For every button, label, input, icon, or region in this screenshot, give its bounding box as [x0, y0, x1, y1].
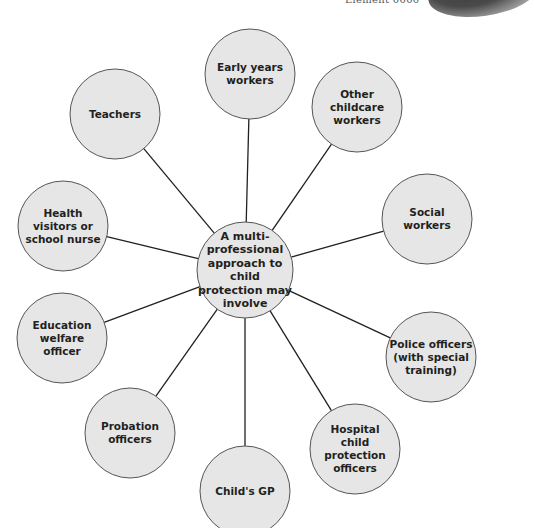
connector-line-probation-officers	[156, 309, 217, 396]
node-label-police-officers: Police officers (with special training)	[386, 312, 476, 402]
connector-line-hospital-child-protection-officers	[270, 311, 331, 411]
connector-line-education-welfare-officer	[104, 287, 200, 323]
connector-line-early-years-workers	[246, 119, 249, 222]
node-label-early-years-workers: Early years workers	[205, 29, 295, 119]
connector-line-teachers	[144, 149, 214, 234]
node-label-other-childcare-workers: Other childcare workers	[312, 62, 402, 152]
connector-line-police-officers	[288, 290, 390, 338]
connector-line-health-visitors-or-school-nurse	[107, 237, 199, 259]
node-label-education-welfare-officer: Education welfare officer	[17, 293, 107, 383]
node-label-teachers: Teachers	[70, 69, 160, 159]
center-label: A multi- professional approach to child …	[197, 222, 293, 318]
node-label-social-workers: Social workers	[382, 174, 472, 264]
connector-line-social-workers	[291, 231, 383, 257]
node-label-hospital-child-protection-officers: Hospital child protection officers	[310, 404, 400, 494]
node-label-probation-officers: Probation officers	[85, 388, 175, 478]
node-label-childs-gp: Child's GP	[200, 446, 290, 528]
node-label-health-visitors-or-school-nurse: Health visitors or school nurse	[18, 181, 108, 271]
connector-line-other-childcare-workers	[272, 144, 331, 230]
